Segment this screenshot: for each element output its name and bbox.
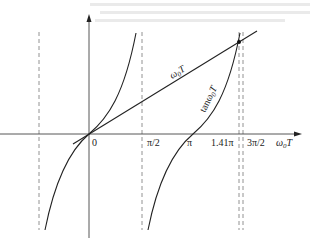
diagram-canvas: 0 π/2 π 1.41π 3π/2 ω0T ω0T tanω0T [0, 0, 315, 248]
tan-label: tanω0T [197, 83, 222, 115]
origin-label: 0 [92, 137, 97, 148]
tick-half-pi: π/2 [147, 137, 160, 148]
x-axis-label: ω0T [276, 137, 294, 150]
x-axis-arrow-icon [294, 132, 302, 137]
x-axis [0, 132, 302, 137]
tick-1-41pi: 1.41π [211, 137, 234, 148]
background-text-bleed [90, 3, 310, 22]
line-omega-t [73, 31, 257, 144]
tick-3-half-pi: 3π/2 [247, 137, 265, 148]
intersection-point [237, 40, 241, 44]
tan-branch-second [148, 33, 240, 230]
tick-pi: π [187, 137, 192, 148]
y-axis-arrow-icon [87, 14, 92, 22]
y-axis [87, 14, 92, 238]
tan-branch-central [45, 33, 136, 230]
